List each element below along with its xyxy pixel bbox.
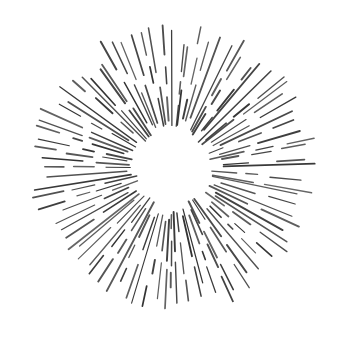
ray-stroke — [216, 196, 287, 242]
ray-stroke — [141, 33, 146, 55]
ray-stroke — [287, 138, 314, 144]
ray-stroke — [214, 185, 292, 216]
ray-stroke — [121, 269, 127, 282]
ray-stroke — [72, 185, 95, 190]
ray-stroke — [252, 151, 271, 154]
ray-stroke — [96, 183, 121, 191]
ray-stroke — [126, 265, 138, 298]
ray-stroke — [101, 69, 126, 103]
ray-stroke — [167, 97, 169, 120]
ray-stroke — [234, 265, 249, 288]
ray-stroke — [277, 160, 305, 162]
ray-stroke — [197, 27, 200, 44]
ray-stroke — [269, 196, 295, 204]
ray-stroke — [270, 177, 301, 180]
ray-stroke — [233, 212, 250, 225]
ray-stroke — [180, 243, 184, 274]
ray-stroke — [228, 224, 233, 229]
ray-stroke — [112, 42, 127, 74]
ray-stroke — [118, 240, 126, 253]
ray-stroke — [42, 158, 83, 161]
ray-stroke — [142, 286, 146, 306]
ray-stroke — [242, 68, 251, 80]
ray-stroke — [162, 222, 166, 251]
ray-stroke — [107, 202, 154, 291]
ray-stroke — [177, 213, 179, 232]
ray-stroke — [83, 149, 94, 151]
ray-stroke — [59, 104, 80, 116]
ray-stroke — [207, 267, 216, 292]
ray-stroke — [204, 64, 259, 130]
ray-stroke — [157, 215, 163, 246]
ray-stroke — [77, 192, 90, 196]
ray-stroke — [63, 195, 102, 210]
ray-stroke — [157, 263, 161, 299]
ray-stroke — [199, 71, 271, 142]
ray-stroke — [194, 199, 221, 236]
ray-stroke — [98, 259, 113, 281]
ray-stroke — [47, 171, 127, 177]
ray-stroke — [175, 262, 177, 303]
ray-stroke — [209, 148, 223, 154]
ray-stroke — [174, 212, 175, 251]
ray-stroke — [244, 82, 287, 115]
sunburst-rays — [0, 0, 343, 337]
ray-stroke — [258, 131, 300, 143]
ray-stroke — [90, 205, 140, 264]
ray-stroke — [282, 144, 305, 148]
ray-stroke — [221, 111, 293, 145]
ray-stroke — [67, 154, 93, 158]
ray-stroke — [38, 139, 69, 146]
ray-stroke — [257, 243, 272, 256]
sunburst-illustration — [0, 0, 343, 337]
ray-stroke — [202, 117, 213, 130]
ray-stroke — [167, 220, 169, 261]
ray-stroke — [191, 58, 197, 84]
ray-stroke — [200, 42, 208, 70]
ray-stroke — [181, 45, 184, 72]
ray-stroke — [184, 47, 188, 76]
ray-stroke — [69, 194, 139, 249]
ray-stroke — [246, 174, 258, 175]
ray-stroke — [91, 79, 115, 106]
ray-stroke — [33, 191, 64, 198]
ray-stroke — [186, 280, 189, 300]
ray-stroke — [256, 146, 273, 150]
ray-stroke — [212, 171, 237, 173]
ray-stroke — [92, 123, 102, 129]
ray-stroke — [121, 43, 136, 80]
ray-stroke — [132, 214, 159, 303]
ray-stroke — [150, 67, 154, 83]
ray-stroke — [273, 120, 293, 128]
ray-stroke — [35, 146, 56, 149]
ray-stroke — [73, 138, 82, 141]
ray-stroke — [166, 67, 167, 84]
ray-stroke — [223, 163, 248, 165]
ray-stroke — [66, 220, 94, 238]
ray-stroke — [183, 209, 203, 283]
ray-stroke — [235, 224, 245, 233]
ray-stroke — [165, 270, 167, 309]
ray-stroke — [96, 163, 129, 165]
ray-stroke — [202, 252, 205, 260]
ray-stroke — [112, 134, 136, 148]
ray-stroke — [89, 256, 103, 274]
ray-stroke — [213, 175, 254, 182]
ray-stroke — [41, 109, 82, 128]
ray-stroke — [73, 81, 85, 92]
ray-stroke — [132, 35, 144, 75]
ray-stroke — [163, 26, 165, 55]
ray-stroke — [39, 201, 65, 209]
ray-stroke — [260, 97, 296, 117]
ray-stroke — [152, 260, 155, 274]
ray-stroke — [149, 28, 157, 72]
ray-stroke — [222, 277, 233, 302]
